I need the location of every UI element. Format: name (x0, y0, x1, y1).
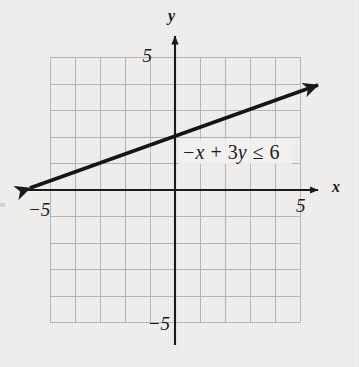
graph-figure: x y 5 −5 −5 5 −x+3y≤6 (0, 0, 359, 367)
page-edge-mark (0, 203, 5, 207)
y-tick-negative-5: −5 (148, 313, 170, 334)
equation-relation-leq: ≤ (253, 141, 264, 163)
equation-annotation: −x+3y≤6 (179, 139, 292, 164)
axes (22, 36, 318, 345)
equation-operator-plus: + (210, 141, 221, 163)
x-tick-negative-5: −5 (28, 199, 50, 220)
y-axis-label: y (166, 7, 176, 25)
equation-term-neg-x: −x (182, 141, 204, 163)
coordinate-plane-svg: x y 5 −5 −5 5 −x+3y≤6 (0, 0, 359, 367)
x-axis-label: x (331, 178, 340, 195)
equation-term-y: y (236, 141, 247, 164)
equation-constant-six: 6 (270, 141, 280, 163)
equation-coefficient-three: 3 (228, 141, 238, 163)
x-tick-positive-5: 5 (296, 195, 306, 216)
y-tick-positive-5: 5 (143, 45, 153, 66)
